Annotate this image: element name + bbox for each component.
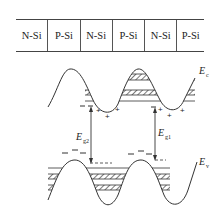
valence-band-curve bbox=[48, 160, 197, 205]
hole-marks-upper: + + + + + + bbox=[96, 105, 185, 121]
label-ec: E c bbox=[198, 65, 209, 78]
label-ev: E v bbox=[198, 156, 209, 169]
conduction-band-filled-states bbox=[85, 74, 195, 101]
svg-text:E: E bbox=[157, 127, 164, 138]
svg-text:v: v bbox=[206, 163, 209, 169]
svg-text:+: + bbox=[105, 112, 110, 121]
band-diagram: + + + + + + E g2 E g1 E c bbox=[0, 0, 223, 215]
gap-arrow-eg2 bbox=[89, 106, 93, 164]
svg-text:E: E bbox=[198, 156, 205, 167]
svg-text:+: + bbox=[167, 111, 172, 120]
label-eg2: E g2 bbox=[75, 131, 89, 144]
svg-text:g1: g1 bbox=[165, 134, 171, 140]
svg-text:E: E bbox=[198, 65, 205, 76]
svg-text:+: + bbox=[115, 105, 120, 114]
svg-text:+: + bbox=[180, 106, 185, 115]
svg-text:+: + bbox=[96, 106, 101, 115]
svg-text:c: c bbox=[206, 72, 209, 78]
conduction-band-curve bbox=[48, 69, 195, 112]
svg-text:g2: g2 bbox=[83, 138, 89, 144]
label-eg1: E g1 bbox=[157, 127, 171, 140]
svg-text:+: + bbox=[158, 105, 163, 114]
svg-text:E: E bbox=[75, 131, 82, 142]
valence-band-filled-states bbox=[40, 168, 170, 190]
valence-reference-dashes bbox=[90, 160, 166, 163]
electron-marks-lower bbox=[62, 150, 152, 154]
gap-arrow-eg1 bbox=[153, 107, 157, 161]
